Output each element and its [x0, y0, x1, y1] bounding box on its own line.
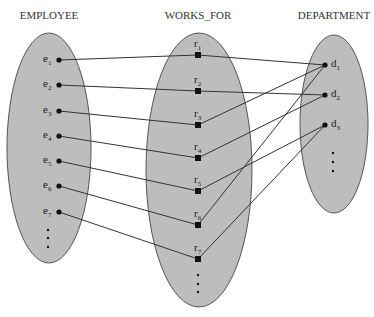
employee-point-e1: [56, 57, 61, 62]
department-point-d3: [322, 122, 327, 127]
works-for-ellipsis-dot: [197, 283, 199, 285]
department-point-d1: [322, 62, 327, 67]
employee-point-e4: [56, 133, 61, 138]
works-for-ellipsis-dot: [197, 291, 199, 293]
relationship-point-r2: [195, 88, 201, 94]
employee-point-e5: [56, 158, 61, 163]
er-instance-diagram: EMPLOYEE WORKS_FOR DEPARTMENT e1e2e3e4e5…: [0, 0, 374, 317]
employee-point-e3: [56, 108, 61, 113]
employee-point-e7: [56, 209, 61, 214]
relationship-point-r1: [195, 52, 201, 58]
relationship-point-r5: [195, 188, 201, 194]
employee-point-e2: [56, 82, 61, 87]
employee-ellipsis-dot: [47, 229, 49, 231]
employee-set-ellipse: [7, 33, 91, 263]
department-ellipsis-dot: [332, 170, 334, 172]
relationship-point-r6: [195, 222, 201, 228]
relationship-point-r4: [195, 155, 201, 161]
employee-ellipsis-dot: [47, 246, 49, 248]
diagram-canvas: e1e2e3e4e5e6e7r1r2r3r4r5r6r7d1d2d3: [0, 0, 374, 317]
department-ellipsis-dot: [332, 152, 334, 154]
works-for-ellipsis-dot: [197, 274, 199, 276]
relationship-point-r3: [195, 122, 201, 128]
employee-point-e6: [56, 183, 61, 188]
department-point-d2: [322, 92, 327, 97]
works-for-set-ellipse: [146, 33, 252, 307]
relationship-point-r7: [195, 256, 201, 262]
department-ellipsis-dot: [332, 161, 334, 163]
employee-ellipsis-dot: [47, 237, 49, 239]
